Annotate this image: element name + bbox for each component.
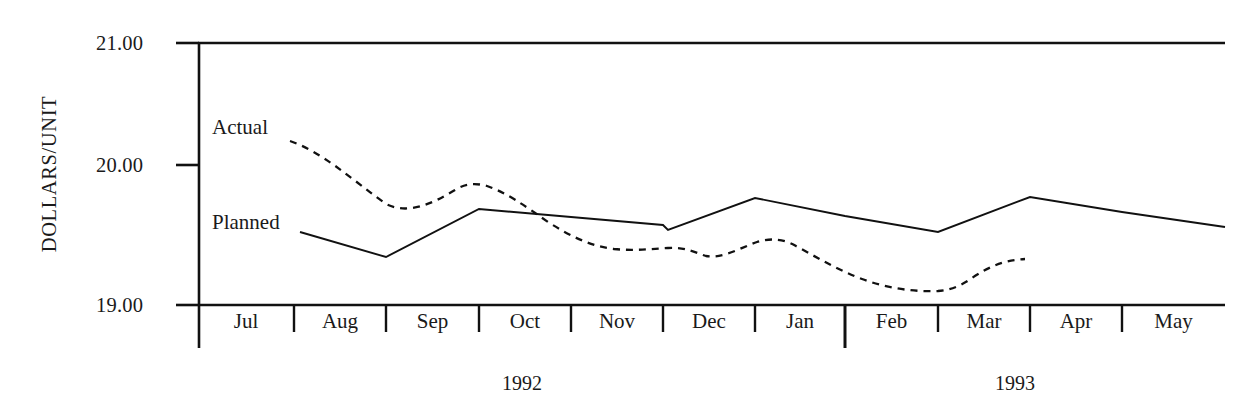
series-label-actual: Actual: [212, 117, 268, 138]
x-axis-label-nov: Nov: [571, 311, 663, 332]
x-axis-label-jul: Jul: [198, 311, 294, 332]
x-axis-year-1992: 1992: [472, 373, 572, 393]
x-axis-label-sep: Sep: [386, 311, 479, 332]
x-axis-label-aug: Aug: [294, 311, 386, 332]
x-axis-label-oct: Oct: [479, 311, 571, 332]
series-line-actual: [290, 141, 1025, 291]
y-tick-label-21: 21.00: [96, 33, 143, 54]
chart-plot-area: [0, 0, 1251, 419]
y-axis-title: DOLLARS/UNIT: [38, 34, 61, 314]
chart-container: DOLLARS/UNIT 21.00 20.00 19.00 Actual Pl…: [0, 0, 1251, 419]
x-axis-label-jan: Jan: [755, 311, 845, 332]
x-axis-label-feb: Feb: [845, 311, 938, 332]
x-axis-label-apr: Apr: [1030, 311, 1122, 332]
y-tick-label-19: 19.00: [96, 295, 143, 316]
x-axis-year-1993: 1993: [965, 373, 1065, 393]
y-tick-label-20: 20.00: [96, 155, 143, 176]
x-axis-label-dec: Dec: [663, 311, 755, 332]
x-axis-label-may: May: [1122, 311, 1225, 332]
series-line-planned: [300, 197, 1225, 257]
series-label-planned: Planned: [212, 212, 280, 233]
x-axis-label-mar: Mar: [938, 311, 1030, 332]
